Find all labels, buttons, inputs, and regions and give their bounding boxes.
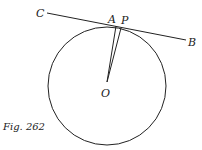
geometry-figure: C A P B O Fig. 262 [0, 0, 202, 150]
label-O: O [101, 88, 110, 99]
label-C: C [36, 8, 44, 19]
label-P: P [121, 15, 128, 26]
label-B: B [188, 37, 196, 48]
figure-caption: Fig. 262 [3, 122, 45, 132]
tangent-line-CB [47, 13, 186, 40]
circle [48, 27, 166, 145]
label-A: A [108, 14, 116, 25]
